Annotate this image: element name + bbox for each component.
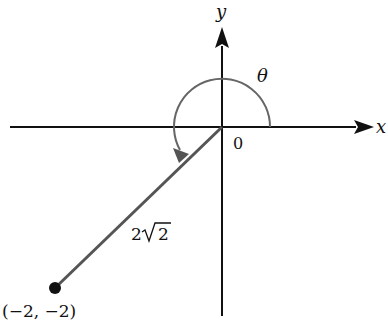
x-axis — [10, 120, 374, 134]
y-axis-label: y — [215, 1, 227, 22]
radius-segment — [55, 127, 222, 288]
point-coordinate-label: (−2, −2) — [2, 301, 76, 321]
length-label: 2 2 — [131, 223, 171, 244]
y-axis — [215, 27, 229, 316]
theta-label: θ — [257, 65, 268, 86]
origin-label: 0 — [233, 134, 243, 153]
y-axis-arrow-icon — [215, 27, 229, 48]
length-coefficient: 2 — [131, 224, 142, 244]
polar-coordinate-diagram: y x 0 θ 2 2 (−2, −2) — [0, 0, 388, 325]
x-axis-label: x — [376, 116, 386, 137]
length-radicand: 2 — [158, 224, 169, 244]
x-axis-arrow-icon — [354, 120, 374, 134]
point-marker — [49, 282, 61, 294]
